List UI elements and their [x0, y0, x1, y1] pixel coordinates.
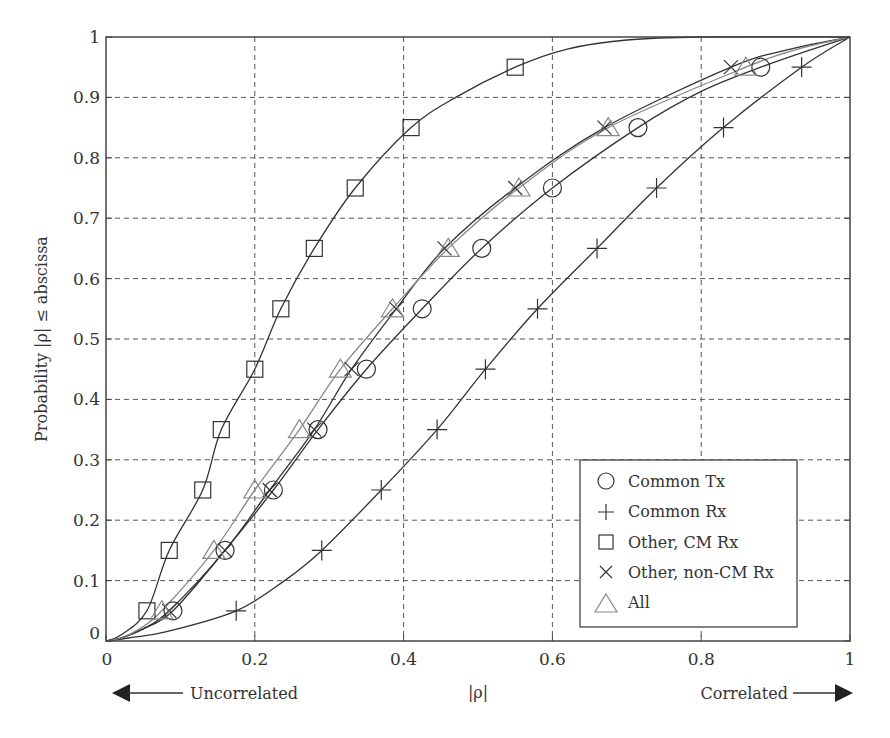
x-marker-icon	[724, 60, 738, 74]
y-tick-label: 0.3	[73, 450, 100, 470]
x-axis-label: |ρ|	[468, 683, 488, 702]
uncorrelated-annotation: Uncorrelated	[112, 684, 298, 703]
y-tick-label: 0.4	[73, 389, 100, 409]
x-tick-label: 1	[845, 649, 856, 669]
legend-label: Other, CM Rx	[628, 533, 738, 552]
left-arrow-icon	[112, 684, 130, 702]
x-tick-label: 0.2	[241, 649, 268, 669]
x-tick-label: 0.8	[688, 649, 715, 669]
plus-marker-icon	[714, 118, 734, 138]
x-tick-label: 0	[102, 649, 113, 669]
plus-marker-icon	[475, 359, 495, 379]
x-tick-label: 0.6	[539, 649, 566, 669]
y-tick-label: 0	[89, 623, 100, 643]
legend-label: All	[627, 593, 650, 612]
legend-label: Common Rx	[628, 502, 726, 521]
x-axis-ticks: 00.20.40.60.81	[102, 635, 856, 669]
y-tick-label: 0.1	[73, 571, 100, 591]
y-tick-label: 0.9	[73, 87, 100, 107]
legend-label: Other, non-CM Rx	[628, 563, 774, 582]
y-tick-label: 0.7	[73, 208, 100, 228]
y-tick-label: 0.8	[73, 148, 100, 168]
triangle-marker-icon	[597, 118, 619, 136]
correlated-annotation: Correlated	[701, 684, 853, 703]
y-tick-label: 0.5	[73, 329, 100, 349]
legend-label: Common Tx	[628, 472, 725, 491]
legend: Common Tx Common Rx Other, CM Rx Other, …	[580, 460, 797, 627]
plus-marker-icon	[226, 601, 246, 621]
right-arrow-icon	[835, 684, 853, 702]
plus-marker-icon	[792, 57, 812, 77]
plus-marker-icon	[427, 420, 447, 440]
correlated-label: Correlated	[701, 684, 788, 703]
y-tick-label: 0.6	[73, 269, 100, 289]
y-tick-label: 1	[89, 27, 100, 47]
x-tick-label: 0.4	[390, 649, 417, 669]
cdf-chart: 00.20.40.60.81 00.10.20.30.40.50.60.70.8…	[0, 0, 890, 738]
y-tick-label: 0.2	[73, 510, 100, 530]
uncorrelated-label: Uncorrelated	[190, 684, 298, 703]
y-axis-label: Probability |ρ| ≤ abscissa	[32, 236, 51, 442]
